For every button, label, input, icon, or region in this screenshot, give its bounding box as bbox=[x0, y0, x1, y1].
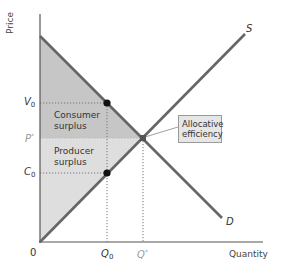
point-q0-c0 bbox=[103, 169, 110, 176]
price-tick-v0-base: V bbox=[24, 96, 31, 107]
origin-label: 0 bbox=[30, 248, 36, 258]
quantity-tick-qstar: Q* bbox=[137, 249, 148, 260]
price-tick-pstar-sup: * bbox=[31, 132, 34, 139]
producer-surplus-label-line1: Producer bbox=[54, 146, 94, 157]
quantity-tick-q0-sub: 0 bbox=[109, 253, 113, 261]
price-tick-v0: V0 bbox=[24, 97, 35, 109]
producer-surplus-label-line2: surplus bbox=[54, 157, 94, 168]
price-tick-v0-sub: 0 bbox=[31, 101, 35, 109]
consumer-surplus-label-line1: Consumer bbox=[54, 110, 100, 121]
producer-surplus-label: Producer surplus bbox=[54, 146, 94, 168]
consumer-surplus-label: Consumer surplus bbox=[54, 110, 100, 132]
diagram-canvas bbox=[0, 0, 283, 270]
supply-curve-label: S bbox=[246, 24, 252, 34]
surplus-diagram: Price Quantity 0 V0 P* C0 Q0 Q* Consumer… bbox=[0, 0, 283, 270]
quantity-tick-q0: Q0 bbox=[101, 249, 113, 261]
quantity-tick-qstar-base: Q bbox=[137, 249, 145, 260]
consumer-surplus-label-line2: surplus bbox=[54, 121, 100, 132]
quantity-tick-qstar-sup: * bbox=[145, 248, 148, 255]
price-tick-c0-base: C bbox=[24, 166, 31, 177]
point-q0-v0 bbox=[103, 99, 110, 106]
demand-curve-label: D bbox=[226, 217, 234, 227]
y-axis-title: Price bbox=[6, 12, 15, 34]
allocative-efficiency-callout: Allocative efficiency bbox=[178, 115, 222, 143]
price-tick-c0-sub: 0 bbox=[31, 171, 35, 179]
x-axis-title: Quantity bbox=[229, 250, 268, 259]
price-tick-c0: C0 bbox=[24, 167, 35, 179]
price-tick-pstar: P* bbox=[25, 133, 34, 144]
callout-line2: efficiency bbox=[182, 129, 221, 139]
callout-line1: Allocative bbox=[182, 119, 221, 129]
quantity-tick-q0-base: Q bbox=[101, 248, 109, 259]
equilibrium-point bbox=[140, 135, 146, 141]
